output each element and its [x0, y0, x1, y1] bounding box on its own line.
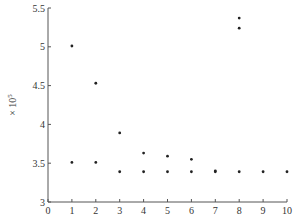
y-tick-label: 4.5 — [33, 80, 46, 91]
y-tick-label: 3 — [40, 197, 45, 208]
y-axis-label: × 105 — [6, 94, 18, 116]
data-point — [286, 170, 289, 173]
data-point — [190, 158, 193, 161]
data-point — [118, 132, 121, 135]
x-tick-label: 8 — [237, 205, 242, 216]
x-tick-label: 9 — [261, 205, 266, 216]
data-point — [214, 170, 217, 173]
data-point — [238, 170, 241, 173]
scatter-chart: 33.544.555.5 012345678910 × 105 — [0, 0, 297, 220]
x-tick-label: 5 — [165, 205, 170, 216]
data-point — [166, 155, 169, 158]
data-point — [71, 161, 74, 164]
data-point — [71, 45, 74, 48]
x-tick-label: 0 — [46, 205, 51, 216]
data-point — [94, 161, 97, 164]
data-point — [238, 17, 241, 20]
y-tick-label: 4 — [40, 119, 45, 130]
x-tick-label: 10 — [282, 205, 292, 216]
y-tick-label: 5.5 — [33, 3, 46, 14]
x-tick-label: 2 — [93, 205, 98, 216]
y-tick-label: 3.5 — [33, 158, 46, 169]
data-point — [142, 152, 145, 155]
y-tick-label: 5 — [40, 41, 45, 52]
data-point — [94, 82, 97, 85]
y-axis-label-exponent: 5 — [6, 94, 14, 98]
x-tick-label: 1 — [69, 205, 74, 216]
data-point — [190, 170, 193, 173]
data-point — [118, 170, 121, 173]
data-point — [142, 170, 145, 173]
data-point — [262, 170, 265, 173]
x-tick-label: 7 — [213, 205, 218, 216]
y-axis-label-base: × 10 — [7, 98, 18, 116]
x-tick-label: 4 — [141, 205, 146, 216]
x-tick-label: 3 — [117, 205, 122, 216]
data-points — [71, 17, 289, 173]
svg-text:× 105: × 105 — [6, 94, 18, 116]
data-point — [238, 27, 241, 30]
x-tick-label: 6 — [189, 205, 194, 216]
data-point — [166, 170, 169, 173]
